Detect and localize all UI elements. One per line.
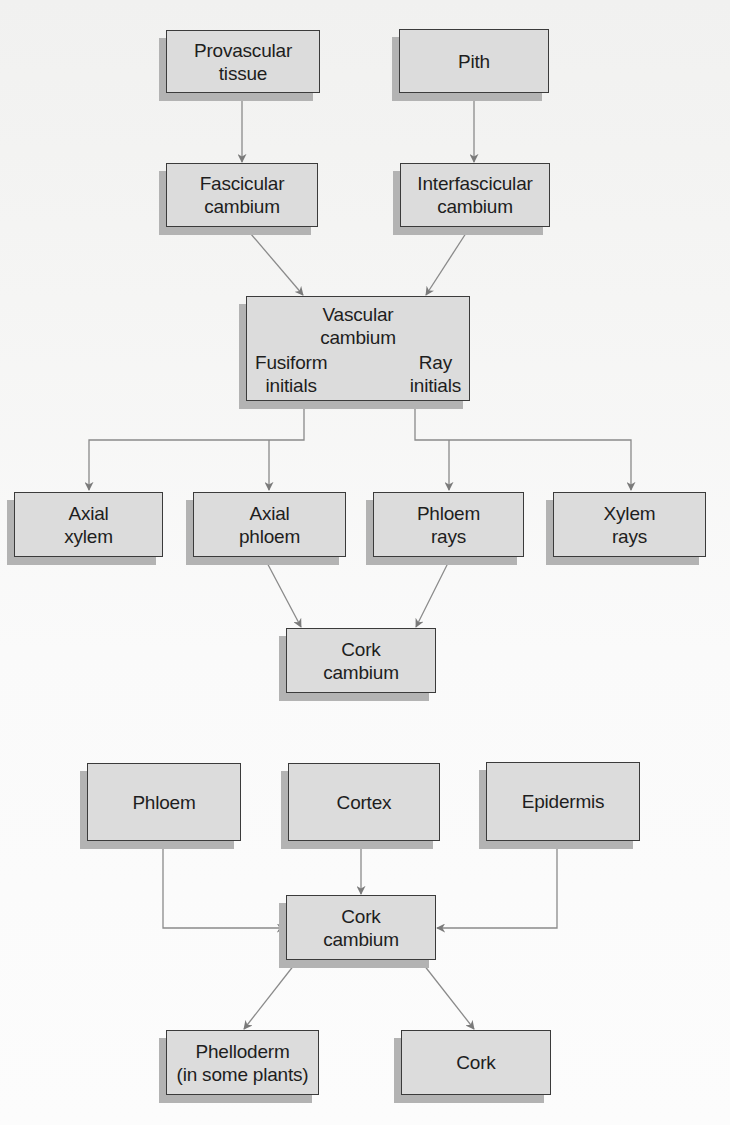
node-label: initials bbox=[410, 374, 461, 397]
node-label: Pith bbox=[458, 50, 490, 73]
node-label: Provascular bbox=[194, 39, 292, 62]
node-cork-cambium-upper: Cork cambium bbox=[286, 628, 436, 693]
node-label: cambium bbox=[323, 661, 399, 684]
node-label: Cork bbox=[341, 905, 380, 928]
ray-initials: Ray initials bbox=[410, 351, 461, 397]
edge-fusiform-to-axial-xylem bbox=[89, 401, 304, 490]
node-cork: Cork bbox=[401, 1030, 551, 1095]
node-label: Ray bbox=[419, 351, 452, 374]
node-epidermis: Epidermis bbox=[486, 762, 640, 841]
node-label: cambium bbox=[320, 326, 396, 349]
node-label: Cork bbox=[341, 638, 380, 661]
node-interfascicular-cambium: Interfascicular cambium bbox=[400, 163, 550, 227]
initials-row: Fusiform initials Ray initials bbox=[247, 351, 469, 397]
edge-interfascicular-to-vascular bbox=[426, 227, 470, 295]
node-axial-xylem: Axial xylem bbox=[14, 492, 163, 557]
node-fascicular-cambium: Fascicular cambium bbox=[166, 163, 318, 227]
node-provascular-tissue: Provascular tissue bbox=[166, 30, 320, 93]
node-label: Axial bbox=[249, 502, 289, 525]
node-label: cambium bbox=[323, 928, 399, 951]
node-label: phloem bbox=[239, 525, 300, 548]
edge-epidermis-to-cork-cambium bbox=[437, 841, 557, 928]
node-label: cambium bbox=[437, 195, 513, 218]
node-label: Axial bbox=[68, 502, 108, 525]
edge-ray-to-xylem-rays bbox=[415, 401, 631, 490]
node-label: cambium bbox=[204, 195, 280, 218]
node-label: rays bbox=[431, 525, 466, 548]
node-xylem-rays: Xylem rays bbox=[553, 492, 706, 557]
node-label: (in some plants) bbox=[177, 1063, 309, 1086]
node-phelloderm: Phelloderm (in some plants) bbox=[166, 1030, 319, 1095]
node-label: Vascular bbox=[323, 303, 394, 326]
node-label: rays bbox=[612, 525, 647, 548]
node-label: Epidermis bbox=[522, 790, 605, 813]
node-label: Cork bbox=[456, 1051, 495, 1074]
node-label: initials bbox=[266, 374, 317, 397]
node-label: tissue bbox=[219, 62, 267, 85]
node-axial-phloem: Axial phloem bbox=[193, 492, 346, 557]
edge-axial-phloem-to-cork-cambium bbox=[264, 557, 301, 627]
node-cork-cambium-lower: Cork cambium bbox=[286, 895, 436, 960]
node-label: Xylem bbox=[604, 502, 656, 525]
node-label: Fascicular bbox=[200, 172, 285, 195]
node-pith: Pith bbox=[399, 29, 549, 93]
node-vascular-cambium: Vascular cambium Fusiform initials Ray i… bbox=[246, 296, 470, 401]
node-label: Phloem bbox=[417, 502, 480, 525]
edge-cork-cambium-to-cork bbox=[420, 960, 474, 1029]
node-phloem: Phloem bbox=[87, 763, 241, 841]
edge-phloem-rays-to-cork-cambium bbox=[416, 557, 451, 627]
node-label: xylem bbox=[64, 525, 113, 548]
edge-phloem-to-cork-cambium bbox=[163, 841, 285, 928]
edge-fascicular-to-vascular bbox=[245, 227, 303, 295]
node-label: Cortex bbox=[337, 791, 392, 814]
node-label: Phloem bbox=[132, 791, 195, 814]
node-phloem-rays: Phloem rays bbox=[373, 492, 524, 557]
edge-cork-cambium-to-phelloderm bbox=[244, 960, 298, 1029]
node-cortex: Cortex bbox=[288, 763, 440, 841]
fusiform-initials: Fusiform initials bbox=[255, 351, 327, 397]
node-label: Phelloderm bbox=[195, 1040, 289, 1063]
node-label: Interfascicular bbox=[417, 172, 532, 195]
node-label: Fusiform bbox=[255, 351, 327, 374]
